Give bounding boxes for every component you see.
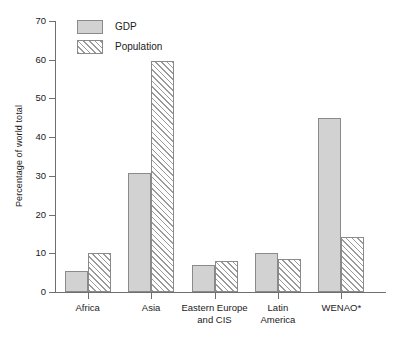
y-tick-mark [49,253,55,254]
y-tick-label: 20 [2,210,46,220]
population-swatch-icon [77,40,103,54]
y-tick-mark [49,98,55,99]
y-tick-mark [49,60,55,61]
bar-gdp-3 [255,253,278,292]
y-tick-mark [49,292,55,293]
y-tick-label-container: 30 [0,171,46,181]
x-tick-mark [278,293,279,299]
y-tick-label-container: 10 [0,248,46,258]
y-tick-mark [49,176,55,177]
bar-population-0 [88,253,111,292]
x-tick-mark [88,293,89,299]
bar-chart: Percentage of world total 01020304050607… [0,0,397,338]
plot-area [56,21,373,292]
bar-population-2 [215,261,238,292]
legend-item-gdp: GDP [77,18,162,35]
x-axis-line [55,292,386,293]
y-tick-label: 0 [2,287,46,297]
legend-label-population: Population [115,41,162,53]
legend-item-population: Population [77,38,162,55]
y-tick-label: 70 [2,16,46,26]
legend-label-gdp: GDP [115,21,137,33]
y-tick-mark [49,21,55,22]
bar-gdp-1 [128,173,151,292]
x-tick-mark [151,293,152,299]
x-tick-mark [341,293,342,299]
chart-legend: GDP Population [77,18,162,58]
y-tick-label-container: 20 [0,210,46,220]
bar-gdp-2 [192,265,215,292]
y-tick-label: 50 [2,93,46,103]
bar-gdp-4 [318,118,341,292]
bar-population-3 [278,259,301,292]
y-tick-mark [49,215,55,216]
y-tick-mark [49,137,55,138]
y-tick-label: 30 [2,171,46,181]
y-tick-label-container: 40 [0,132,46,142]
y-tick-label-container: 70 [0,16,46,26]
y-tick-label-container: 60 [0,55,46,65]
y-tick-label: 10 [2,248,46,258]
y-tick-label: 40 [2,132,46,142]
y-tick-label: 60 [2,55,46,65]
gdp-swatch-icon [77,20,103,34]
x-tick-mark [215,293,216,299]
bar-population-4 [341,237,364,292]
y-tick-label-container: 50 [0,93,46,103]
y-tick-label-container: 0 [0,287,46,297]
x-axis-label-4: WENAO* [291,302,391,314]
bar-population-1 [151,61,174,292]
bar-gdp-0 [65,271,88,292]
